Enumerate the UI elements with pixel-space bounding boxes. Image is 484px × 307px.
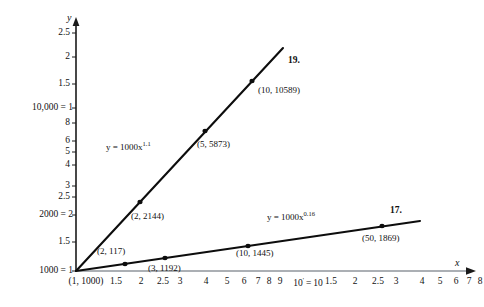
x-tick-label: 6 [454,277,459,287]
point-label-50-1869: (50, 1869) [362,234,400,243]
y-axis-title: y [67,13,71,23]
point-label-10-1445: (10, 1445) [236,249,274,258]
y-tick-label: 4 [65,160,70,170]
equation-label-upper: y = 1000x1.1 [106,141,151,152]
x-tick-label: 4 [204,277,209,287]
y-tick-label: 5 [65,147,70,157]
y-tick-label-decade: 1000 = 1 [39,266,73,276]
y-tick-label: 2.5 [58,28,70,38]
grid-horizontal [76,33,478,271]
x-tick-label: 2.5 [372,277,384,287]
x-tick-label: 9 [278,277,283,287]
x-tick-label: 2.5 [157,277,169,287]
y-tick-label: 1.5 [58,237,70,247]
point-label-2-2144: (2, 2144) [131,212,164,221]
x-tick-label: 5 [225,277,230,287]
y-tick-label: 8 [65,118,70,128]
point-label-2-117: (2, 117) [97,247,125,256]
equation-upper-text: y = 1000x [106,142,143,152]
x-tick-label: 8 [478,277,483,287]
y-tick-label: 2 [65,52,70,62]
log-log-plot-figure: 2.5 2 1.5 10,000 = 1 8 6 5 4 3 2.5 2000 … [0,0,484,307]
x-tick-label: 3 [178,277,183,287]
x-tick-label: 2 [353,277,358,287]
x-tick-label: 3 [394,277,399,287]
y-tick-label: 3 [65,181,70,191]
figure-number-17: 17. [390,206,402,216]
equation-lower-exponent: 0.16 [304,210,315,217]
figure-number-19: 19. [288,56,300,66]
x-tick-label: 8 [267,277,272,287]
x-tick-label: 5 [438,277,443,287]
y-tick-label: 1.5 [58,79,70,89]
y-tick-label: 6 [65,136,70,146]
x-tick-label: 7 [467,277,472,287]
x-tick-label: 2 [139,277,144,287]
equation-lower-text: y = 1000x [267,212,304,222]
x-tick-label: 4 [420,277,425,287]
x-tick-label-decade: 10' = 10 [293,277,322,289]
x-tick-label-origin: (1, 1000) [69,277,104,287]
y-tick-label-decade: 2000 = 2 [39,210,73,220]
x-axis-title: x [455,258,459,268]
point-label-10-10589: (10, 10589) [258,86,300,95]
x-tick-label: 1.5 [325,277,337,287]
point-label-5-5873: (5, 5873) [197,140,230,149]
x-tick-label: 1.5 [110,277,122,287]
y-tick-label: 2.5 [58,192,70,202]
y-tick-label-decade: 10,000 = 1 [32,103,73,113]
x-tick-label: 6 [242,277,247,287]
plot-canvas [0,0,484,307]
x-tick-label: 7 [256,277,261,287]
equation-upper-exponent: 1.1 [143,140,151,147]
point-label-3-1192: (3, 1192) [148,264,181,273]
equation-label-lower: y = 1000x0.16 [267,211,315,222]
